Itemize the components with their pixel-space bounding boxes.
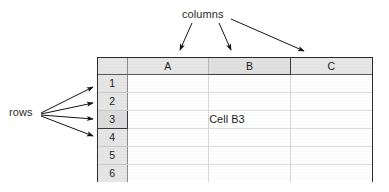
row-header-1[interactable]: 1 xyxy=(98,74,127,92)
table-row: 6 xyxy=(98,164,372,182)
cell-c1[interactable] xyxy=(290,74,372,92)
rows-annotation-label: rows xyxy=(9,106,33,118)
cell-a5[interactable] xyxy=(127,146,209,164)
row-header-4[interactable]: 4 xyxy=(98,128,127,146)
row-header-2[interactable]: 2 xyxy=(98,92,127,110)
cell-b5[interactable] xyxy=(209,146,291,164)
arrow-columns-to-a xyxy=(180,23,192,50)
spreadsheet-grid[interactable]: A B C 1 2 3 Cell B3 xyxy=(97,57,373,182)
arrow-rows-to-row2 xyxy=(41,103,93,114)
cell-c4[interactable] xyxy=(290,128,372,146)
column-header-b[interactable]: B xyxy=(209,58,291,74)
cell-b4[interactable] xyxy=(209,128,291,146)
table-row: 5 xyxy=(98,146,372,164)
table-row: 4 xyxy=(98,128,372,146)
columns-annotation-label: columns xyxy=(182,8,224,20)
column-header-c[interactable]: C xyxy=(290,58,372,74)
cell-c6[interactable] xyxy=(290,164,372,182)
select-all-corner[interactable] xyxy=(98,58,127,74)
arrow-columns-to-c xyxy=(231,19,304,51)
row-header-5[interactable]: 5 xyxy=(98,146,127,164)
cell-b3[interactable]: Cell B3 xyxy=(209,110,291,128)
arrow-rows-to-row1 xyxy=(41,87,93,113)
row-header-3[interactable]: 3 xyxy=(98,110,127,128)
arrow-rows-to-row3 xyxy=(41,115,93,119)
cell-a2[interactable] xyxy=(127,92,209,110)
cell-c5[interactable] xyxy=(290,146,372,164)
cell-a1[interactable] xyxy=(127,74,209,92)
cell-a3[interactable] xyxy=(127,110,209,128)
cell-c2[interactable] xyxy=(290,92,372,110)
arrow-columns-to-b xyxy=(219,23,231,50)
spreadsheet-table: A B C 1 2 3 Cell B3 xyxy=(98,58,372,182)
arrow-rows-to-row4 xyxy=(41,116,93,136)
table-row: 1 xyxy=(98,74,372,92)
row-header-6[interactable]: 6 xyxy=(98,164,127,182)
cell-a4[interactable] xyxy=(127,128,209,146)
cell-b2[interactable] xyxy=(209,92,291,110)
cell-a6[interactable] xyxy=(127,164,209,182)
cell-c3[interactable] xyxy=(290,110,372,128)
column-header-row: A B C xyxy=(98,58,372,74)
column-header-a[interactable]: A xyxy=(127,58,209,74)
cell-b6[interactable] xyxy=(209,164,291,182)
table-row: 2 xyxy=(98,92,372,110)
cell-b1[interactable] xyxy=(209,74,291,92)
spreadsheet-body: 1 2 3 Cell B3 4 xyxy=(98,74,372,182)
table-row: 3 Cell B3 xyxy=(98,110,372,128)
